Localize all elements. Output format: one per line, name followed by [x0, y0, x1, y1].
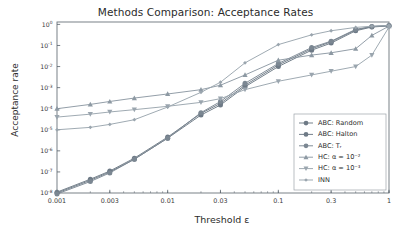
x-tick-label: 0.001	[48, 197, 66, 205]
legend-item-label[interactable]: ABC: Halton	[318, 130, 357, 138]
x-tick-label: 0.01	[161, 197, 175, 205]
x-tick-label: 0.003	[101, 197, 119, 205]
y-tick-label: 10-4	[40, 105, 52, 112]
y-tick-label: 10-1	[40, 41, 52, 48]
legend-item-label[interactable]: ABC: Random	[318, 119, 363, 127]
x-tick-label: 0.03	[213, 197, 227, 205]
legend-item-label[interactable]: INN	[318, 176, 330, 184]
y-tick-label: 10-3	[40, 84, 52, 91]
y-tick-label: 100	[42, 20, 53, 27]
x-tick-label: 0.1	[273, 197, 283, 205]
legend-item-label[interactable]: HC: α = 10⁻³	[318, 164, 361, 172]
y-tick-label: 10-8	[40, 189, 52, 196]
y-tick-label: 10-5	[40, 126, 52, 133]
legend-item-label[interactable]: ABC: Tᵣ	[318, 142, 342, 150]
y-tick-label: 10-7	[40, 168, 52, 175]
chart-figure: Methods Comparison: Acceptance Rates Acc…	[0, 0, 411, 235]
legend-item-label[interactable]: HC: α = 10⁻²	[318, 153, 361, 161]
x-tick-label: 1	[387, 197, 391, 205]
x-tick-label: 0.3	[326, 197, 336, 205]
plot-area: 0.0010.0030.010.030.10.31 10010-110-210-…	[0, 0, 411, 235]
y-tick-label: 10-6	[40, 147, 52, 154]
legend[interactable]: ABC: RandomABC: HaltonABC: TᵣHC: α = 10⁻…	[294, 114, 386, 190]
y-tick-label: 10-2	[40, 63, 52, 70]
